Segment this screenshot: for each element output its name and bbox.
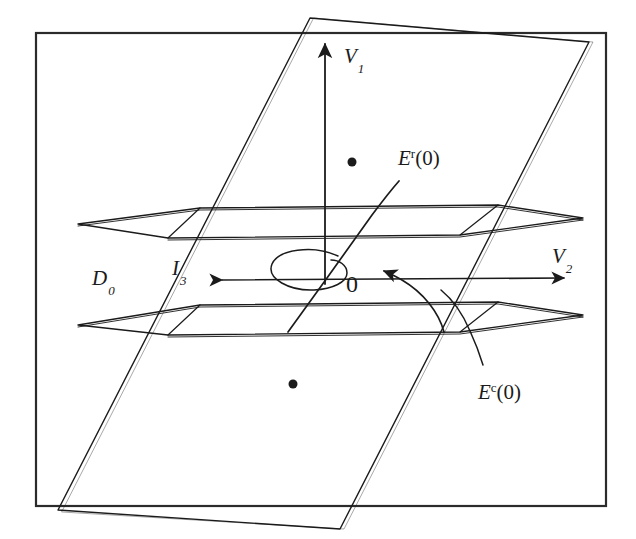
- upper-dot: [348, 158, 357, 167]
- label-er0-suffix: (0): [415, 146, 440, 170]
- label-d0: D0: [92, 268, 114, 292]
- label-v1: V1: [344, 46, 363, 70]
- label-ec0-suffix: (0): [497, 380, 522, 404]
- label-v2: V2: [552, 246, 571, 270]
- label-ec0: Ec(0): [478, 382, 521, 403]
- label-v1-base: V: [344, 44, 357, 68]
- label-i3: I3: [172, 258, 186, 282]
- label-i3-base: I: [172, 256, 179, 280]
- label-v1-sub: 1: [358, 61, 365, 76]
- label-i3-sub: 3: [180, 273, 187, 288]
- figure-root: V1 V2 D0 I3 Er(0) Ec(0) 0: [0, 0, 636, 539]
- label-d0-sub: 0: [108, 283, 115, 298]
- label-v2-sub: 2: [566, 261, 573, 276]
- label-er0-sup: r: [411, 146, 415, 161]
- label-ec0-sup: c: [491, 380, 497, 395]
- label-origin: 0: [346, 272, 358, 296]
- figure-border: [36, 33, 606, 506]
- label-er0-base: E: [398, 146, 411, 170]
- label-d0-base: D: [92, 266, 107, 290]
- label-v2-base: V: [552, 244, 565, 268]
- label-er0: Er(0): [398, 148, 440, 169]
- lower-dot: [289, 380, 298, 389]
- label-ec0-base: E: [478, 380, 491, 404]
